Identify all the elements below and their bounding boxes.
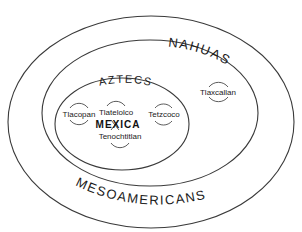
capital-label: MEXICA: [96, 119, 141, 130]
city-tlaxcallan: Tlaxcallan: [200, 82, 236, 101]
nested-groups-diagram: NAHUAS MESOAMERICANS AZTECS Tlacopan Tla…: [0, 0, 302, 232]
city-tenochtitlan: Tenochtitlan: [99, 132, 142, 148]
nahuas-label: NAHUAS: [168, 35, 234, 69]
mesoamericans-label: MESOAMERICANS: [74, 174, 208, 208]
city-tlatelolco: Tlatelolco: [99, 101, 134, 117]
city-label: Tlatelolco: [99, 108, 134, 117]
city-tetzcoco: Tetzcoco: [148, 104, 180, 125]
city-label: Tenochtitlan: [99, 132, 142, 141]
city-label: Tlaxcallan: [200, 88, 236, 97]
aztecs-label: AZTECS: [98, 73, 154, 89]
city-label: Tlacopan: [63, 110, 96, 119]
city-label: Tetzcoco: [148, 110, 180, 119]
city-tlacopan: Tlacopan: [63, 103, 96, 124]
capital-mexica: MEXICA: [96, 119, 141, 130]
